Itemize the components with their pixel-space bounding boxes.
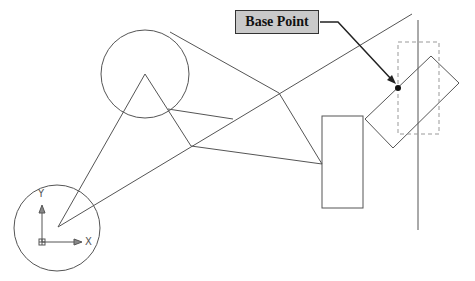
rotated-rectangle: [365, 56, 459, 148]
line-apex-left: [58, 74, 145, 227]
upright-rectangle: [322, 116, 363, 208]
base-point-dot: [395, 85, 401, 91]
bottom-left-circle: [14, 185, 100, 271]
drawing-geometry: [0, 0, 475, 281]
line-apex-right: [145, 74, 191, 146]
ucs-x-arrow-icon: [74, 239, 82, 245]
cad-drawing-canvas[interactable]: Base Point Y X: [0, 0, 475, 281]
line-p2-rect: [191, 146, 322, 164]
line-circle-p3: [168, 109, 233, 119]
ucs-x-label: X: [85, 236, 92, 247]
ucs-y-arrow-icon: [39, 205, 45, 213]
leader-line: [320, 22, 392, 80]
line-tangent-top: [170, 32, 279, 93]
base-point-callout: Base Point: [235, 10, 319, 34]
line-p1-rect: [279, 93, 322, 164]
ucs-y-label: Y: [38, 188, 44, 199]
